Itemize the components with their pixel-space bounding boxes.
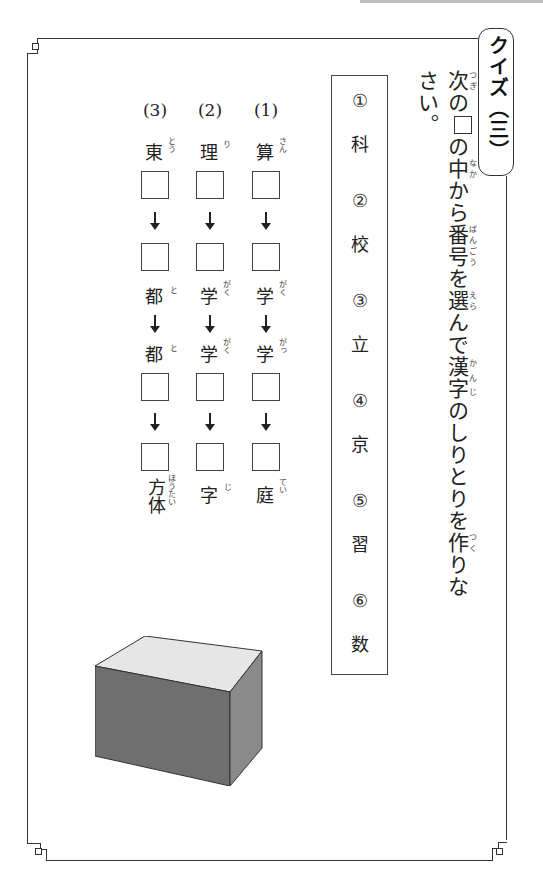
- instruction-text: 次つぎのの中なかから番号ばんごうを選えらんで漢字かんじのしりとりを作つくりなさい…: [440, 70, 476, 610]
- corner-br-step: [492, 848, 493, 861]
- question-1-blank-2[interactable]: [252, 243, 280, 271]
- question-1-mid1-kanji: 学: [256, 282, 274, 308]
- arrow-down-icon: [209, 315, 211, 331]
- cube-illustration: [95, 636, 265, 786]
- question-3-start-ruby: とう: [166, 137, 175, 153]
- options-box: ① 科 ② 校 ③ 立 ④ 京 ⑤ 習 ⑥ 数: [331, 75, 388, 675]
- option-4-number: ④: [332, 390, 387, 411]
- arrow-down-icon: [265, 315, 267, 331]
- frame-right: [506, 176, 507, 840]
- question-3-end-ruby: ほうたい: [166, 474, 175, 506]
- instruction-segment: のしりとりを: [445, 400, 469, 532]
- frame-bottom: [46, 860, 492, 861]
- option-5-number: ⑤: [332, 490, 387, 511]
- option-4-kanji: 京: [332, 430, 387, 456]
- corner-tl-step: [27, 53, 37, 54]
- question-2-mid1-ruby: がく: [221, 280, 230, 296]
- instruction-segment: から: [445, 180, 469, 224]
- corner-tl-step3: [37, 38, 45, 39]
- arrow-down-icon: [265, 413, 267, 429]
- instruction-segment: んで: [445, 312, 469, 356]
- arrow-down-icon: [209, 212, 211, 228]
- question-3-mid1-ruby: と: [168, 286, 177, 294]
- option-6-number: ⑥: [332, 590, 387, 611]
- corner-br-step4: [498, 842, 507, 843]
- question-2-mid2-ruby: がく: [221, 338, 230, 354]
- question-1-mid2-ruby: がっ: [277, 338, 286, 354]
- question-3-blank-2[interactable]: [141, 243, 169, 271]
- question-3-blank-3[interactable]: [141, 373, 169, 401]
- arrow-down-icon: [154, 315, 156, 331]
- question-1-blank-1[interactable]: [252, 171, 280, 199]
- arrow-down-icon: [265, 212, 267, 228]
- question-3-start-kanji: 東: [145, 138, 163, 164]
- option-2-kanji: 校: [332, 230, 387, 256]
- question-2-label: (2): [188, 100, 232, 120]
- question-2-blank-3[interactable]: [196, 373, 224, 401]
- option-5-kanji: 習: [332, 530, 387, 556]
- instruction-ruby-word: 作つく: [445, 532, 469, 554]
- option-2-number: ②: [332, 190, 387, 211]
- top-gray-bar: [360, 0, 543, 3]
- corner-bl-square: [35, 848, 42, 855]
- question-1-start-ruby: さん: [277, 137, 286, 153]
- question-1-blank-3[interactable]: [252, 373, 280, 401]
- option-1-kanji: 科: [332, 130, 387, 156]
- instruction-ruby-word: 番号ばんごう: [445, 224, 469, 268]
- option-3-number: ③: [332, 290, 387, 311]
- blank-square-icon: [454, 116, 472, 134]
- question-3-blank-4[interactable]: [141, 443, 169, 471]
- question-2-end-kanji: 字: [200, 481, 218, 507]
- instruction-ruby-word: 中なか: [445, 158, 469, 180]
- question-3-mid2-ruby: と: [168, 344, 177, 352]
- quiz-title-badge: クイズ（三）: [478, 28, 514, 176]
- instruction-segment: の: [445, 136, 469, 158]
- question-1-end-kanji: 庭: [256, 481, 274, 507]
- question-3-blank-1[interactable]: [141, 171, 169, 199]
- question-2-blank-2[interactable]: [196, 243, 224, 271]
- question-2-mid1-kanji: 学: [200, 282, 218, 308]
- quiz-title: クイズ（三）: [479, 35, 513, 161]
- instruction-segment: の: [445, 92, 469, 114]
- instruction-ruby-word: 選えら: [445, 290, 469, 312]
- corner-tl-square: [32, 43, 39, 50]
- question-2-blank-4[interactable]: [196, 443, 224, 471]
- option-6-kanji: 数: [332, 630, 387, 656]
- question-3-end-kanji: 方体: [145, 478, 165, 514]
- arrow-down-icon: [209, 413, 211, 429]
- arrow-down-icon: [154, 212, 156, 228]
- question-1-start-kanji: 算: [256, 138, 274, 164]
- question-3-label: (3): [133, 100, 177, 120]
- corner-bl-step: [27, 843, 41, 844]
- question-2-start-ruby: り: [221, 140, 230, 148]
- corner-br-square: [496, 848, 503, 855]
- question-1-label: (1): [244, 100, 288, 120]
- frame-top: [43, 38, 478, 39]
- question-1-end-ruby: てい: [277, 478, 286, 494]
- frame-left: [27, 53, 28, 844]
- question-2-start-kanji: 理: [200, 138, 218, 164]
- instruction-ruby-word: 次つぎ: [445, 70, 469, 92]
- question-2-mid2-kanji: 学: [200, 340, 218, 366]
- question-1-mid2-kanji: 学: [256, 340, 274, 366]
- instruction-segment: を: [445, 268, 469, 290]
- question-1-mid1-ruby: がく: [277, 280, 286, 296]
- arrow-down-icon: [154, 413, 156, 429]
- question-1-blank-4[interactable]: [252, 443, 280, 471]
- question-3-mid2-kanji: 都: [145, 340, 163, 366]
- option-1-number: ①: [332, 90, 387, 111]
- instruction-ruby-word: 漢字かんじ: [445, 356, 469, 400]
- option-3-kanji: 立: [332, 330, 387, 356]
- question-2-end-ruby: じ: [222, 483, 231, 491]
- corner-bl-step2: [46, 849, 47, 861]
- question-2-blank-1[interactable]: [196, 171, 224, 199]
- question-3-mid1-kanji: 都: [145, 282, 163, 308]
